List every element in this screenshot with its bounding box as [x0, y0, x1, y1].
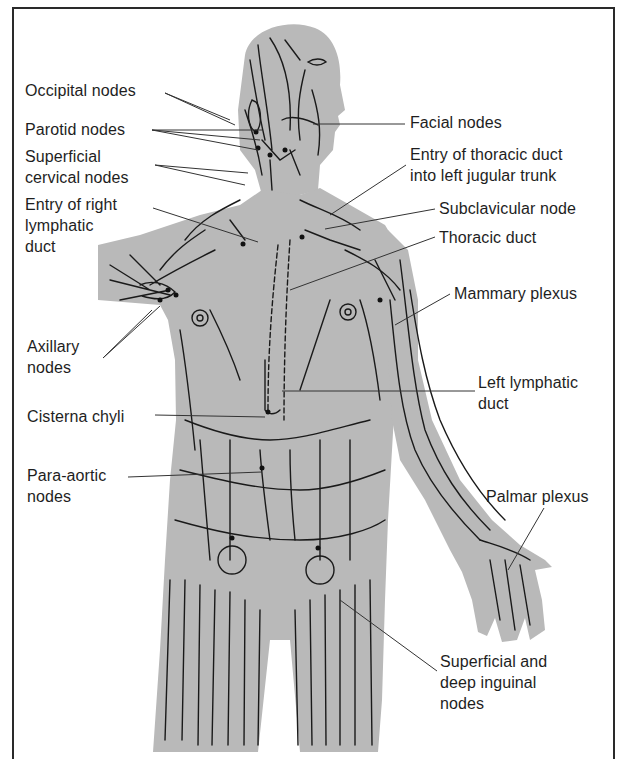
label-entry-thoracic-duct: Entry of thoracic duct into left jugular… [410, 144, 563, 186]
label-thoracic-duct: Thoracic duct [439, 227, 536, 248]
label-left-lymphatic-duct: Left lymphatic duct [478, 372, 578, 414]
leader-axillary [103, 306, 160, 358]
label-superficial-cervical-nodes: Superficial cervical nodes [25, 146, 129, 188]
label-parotid-nodes: Parotid nodes [25, 119, 125, 140]
leader-superficial-cervical [155, 165, 248, 185]
leader-entry-thoracic [330, 165, 406, 215]
label-para-aortic-nodes: Para-aortic nodes [27, 465, 106, 507]
label-palmar-plexus: Palmar plexus [486, 486, 589, 507]
label-mammary-plexus: Mammary plexus [454, 283, 577, 304]
label-cisterna-chyli: Cisterna chyli [27, 406, 124, 427]
label-axillary-nodes: Axillary nodes [27, 336, 79, 378]
label-subclavicular-node: Subclavicular node [439, 198, 576, 219]
label-facial-nodes: Facial nodes [410, 112, 502, 133]
label-occipital-nodes: Occipital nodes [25, 80, 136, 101]
label-entry-right-lymphatic-duct: Entry of right lymphatic duct [25, 194, 117, 257]
label-superficial-deep-inguinal-nodes: Superficial and deep inguinal nodes [440, 651, 547, 714]
leader-occipital [165, 93, 235, 125]
